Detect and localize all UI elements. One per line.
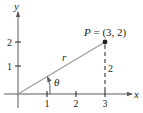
x-axis-label: x — [133, 88, 139, 100]
x-tick-label-3: 3 — [103, 98, 108, 109]
y-tick-label-1: 1 — [7, 61, 12, 72]
x-tick-label-2: 2 — [74, 98, 79, 109]
angle-label: θ — [54, 76, 60, 88]
y-tick-label-2: 2 — [7, 37, 12, 48]
x-tick-label-1: 1 — [45, 98, 50, 109]
angle-arc — [48, 77, 51, 94]
y-axis-label: y — [13, 0, 19, 12]
coordinate-diagram: y x 1 2 3 1 2 P = (3, 2) r θ 2 — [0, 0, 143, 113]
radius-label: r — [62, 51, 67, 63]
radius-line — [18, 42, 105, 94]
point-p-label: P = (3, 2) — [83, 26, 127, 39]
vertical-side-label: 2 — [108, 63, 113, 74]
point-p-dot — [103, 40, 108, 45]
point-p-label-rest: = (3, 2) — [91, 26, 127, 39]
